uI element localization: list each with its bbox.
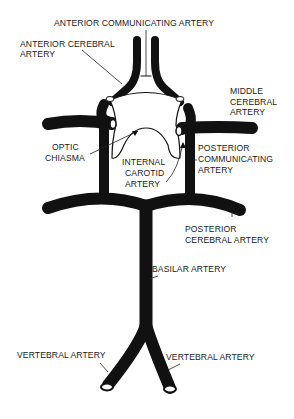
label-optic-chiasma-line1: OPTIC [52,142,79,152]
label-vertebral-artery-left: VERTEBRAL ARTERY [17,350,106,360]
label-posterior-cerebral-artery-line2: CEREBRAL ARTERY [185,235,269,245]
label-middle-cerebral-artery-line2: CEREBRAL [230,97,277,107]
label-internal-carotid-artery-line3: ARTERY [125,179,160,189]
label-posterior-communicating-artery-line3: ARTERY [198,165,233,175]
label-basilar-artery: BASILAR ARTERY [152,264,226,274]
label-internal-carotid-artery-line1: INTERNAL [122,157,165,167]
label-posterior-communicating-artery-line1: POSTERIOR [198,143,250,153]
label-optic-chiasma-line2: CHIASMA [45,153,85,163]
label-posterior-communicating-artery-line2: COMMUNICATING [198,154,273,164]
optic-chiasma [110,93,182,159]
label-anterior-cerebral-artery-line1: ANTERIOR CEREBRAL [20,39,115,49]
anterior-cerebral-artery-left [112,40,137,102]
label-middle-cerebral-artery-line3: ARTERY [230,107,265,117]
label-middle-cerebral-artery-line1: MIDDLE [230,86,263,96]
label-internal-carotid-artery-line2: CAROTID [125,168,164,178]
anterior-cerebral-artery-right [155,40,180,102]
label-anterior-cerebral-artery-line2: ARTERY [20,49,55,59]
label-vertebral-artery-right: VERTEBRAL ARTERY [166,352,255,362]
label-anterior-communicating-artery: ANTERIOR COMMUNICATING ARTERY [54,18,214,28]
vertebral-artery-left [108,325,146,385]
label-posterior-cerebral-artery-line1: POSTERIOR [185,224,237,234]
